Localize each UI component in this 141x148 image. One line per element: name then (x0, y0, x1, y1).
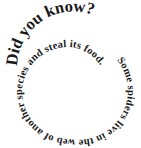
fact-part1: Some spiders live in the web of another … (13, 55, 137, 148)
fact-textpath: Some spiders live in the web of another … (13, 38, 137, 148)
spiral-svg: Did you know? Some spiders live in the w… (0, 0, 141, 148)
fact-part2: and steal its food. (24, 38, 108, 67)
fact-text: Some spiders live in the web of another … (13, 38, 137, 148)
heading-text: Did you know? (2, 0, 97, 67)
spiral-text-graphic: Did you know? Some spiders live in the w… (0, 0, 141, 148)
heading-textpath: Did you know? (2, 0, 97, 67)
